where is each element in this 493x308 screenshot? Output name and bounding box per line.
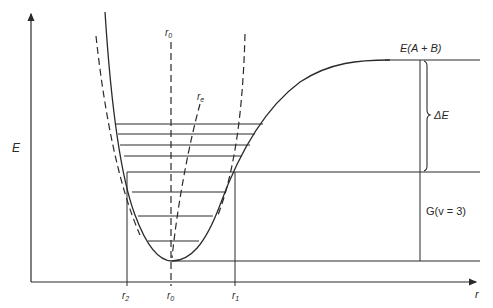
potential-energy-diagram: E r r0 re E(A + B) ΔE G(v = 3) <box>0 0 493 308</box>
r0-bottom-label: r0 <box>167 290 174 302</box>
x-axis-label: r <box>475 288 480 300</box>
r1-label: r1 <box>232 290 239 302</box>
g-v3-label: G(v = 3) <box>426 205 466 217</box>
re-curve-label: re <box>197 91 204 103</box>
dashed-curves <box>96 34 245 286</box>
axes <box>31 14 476 282</box>
r0-top-label: r0 <box>165 27 172 39</box>
r2-label: r2 <box>122 290 129 302</box>
delta-e-brace <box>424 61 430 171</box>
y-axis-label: E <box>12 141 21 155</box>
delta-e-label: ΔE <box>433 109 449 121</box>
potential-curve <box>105 12 390 261</box>
dissociation-energy-label: E(A + B) <box>400 42 442 54</box>
harmonic-left-dashed <box>96 36 140 235</box>
re-dashed-curve <box>172 104 200 258</box>
